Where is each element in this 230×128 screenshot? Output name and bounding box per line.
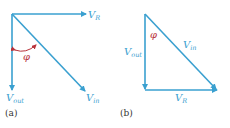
vector-vin-arrow [145, 14, 216, 89]
vr-label: VR [175, 92, 187, 105]
vout-label: Vout [124, 46, 142, 59]
vin-label: Vin [183, 39, 197, 52]
vr-label: VR [88, 9, 100, 22]
angle-phi-label: φ [150, 29, 157, 40]
angle-phi-label: φ [23, 51, 30, 62]
panel-a: φ VR Vout Vin (a) [5, 9, 100, 118]
panel-b-caption: (b) [120, 108, 133, 118]
panel-a-caption: (a) [5, 108, 17, 118]
panel-b: φ Vout Vin VR (b) [120, 14, 217, 118]
vin-label: Vin [86, 92, 100, 105]
phasor-diagram: φ VR Vout Vin (a) φ Vout Vin VR (b) [0, 0, 230, 128]
vout-label: Vout [6, 92, 24, 105]
